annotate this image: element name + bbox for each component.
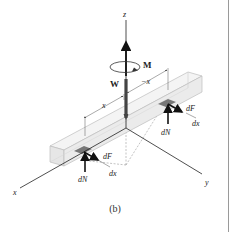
moment-icon xyxy=(110,62,140,73)
figure-caption: (b) xyxy=(0,203,230,214)
beam-free-body-diagram: z M W x −x dF dx dN dF dx dN x y xyxy=(0,0,230,232)
left-dimension-label: x xyxy=(101,101,106,110)
y-axis-label: y xyxy=(204,178,209,187)
right-dF-label: dF xyxy=(186,104,195,113)
right-border-rule xyxy=(228,0,229,232)
x-axis-label: x xyxy=(12,188,17,197)
left-dF-arrow xyxy=(84,152,98,160)
moment-label: M xyxy=(143,60,152,70)
z-axis-label: z xyxy=(122,10,127,19)
left-dF-label: dF xyxy=(103,152,112,161)
right-dx-label: dx xyxy=(192,119,200,128)
right-dN-label: dN xyxy=(161,128,171,137)
right-dimension-label: −x xyxy=(141,77,150,86)
left-dx-label: dx xyxy=(109,169,117,178)
left-dN-label: dN xyxy=(78,175,88,184)
weight-label: W xyxy=(110,79,119,89)
